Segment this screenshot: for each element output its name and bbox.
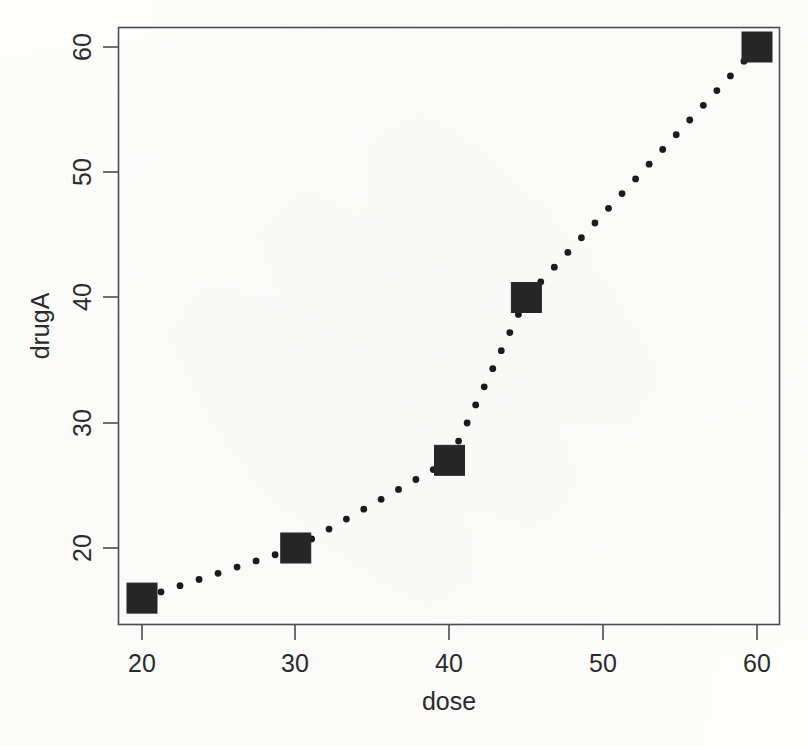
y-tick-label-50: 50 xyxy=(68,158,96,186)
series-line-dot xyxy=(196,576,203,583)
x-tick-label-40: 40 xyxy=(435,649,463,677)
series-line-dot xyxy=(564,249,571,256)
series-line-dot xyxy=(673,131,680,138)
series-line-dot xyxy=(498,347,505,354)
x-tick-label-30: 30 xyxy=(281,649,309,677)
series-line-dot xyxy=(464,420,471,427)
x-axis-ticks xyxy=(142,625,757,640)
data-point-marker xyxy=(127,583,157,613)
series-line-dot xyxy=(343,516,350,523)
series-line-dot xyxy=(472,401,479,408)
chart-figure: 20 30 40 50 60 20 30 40 50 60 xyxy=(0,0,808,746)
series-line-dot xyxy=(253,558,260,565)
y-tick-label-20: 20 xyxy=(68,534,96,562)
y-axis-ticks xyxy=(103,47,118,548)
x-axis-tick-labels: 20 30 40 50 60 xyxy=(128,649,771,677)
x-tick-label-60: 60 xyxy=(743,649,771,677)
series-line-dot xyxy=(578,234,585,241)
data-point-marker xyxy=(435,445,465,475)
series-line-dot xyxy=(378,496,385,503)
series-line-dot xyxy=(234,564,241,571)
y-axis-title: drugA xyxy=(26,292,54,359)
chart-svg: 20 30 40 50 60 20 30 40 50 60 xyxy=(0,0,808,746)
plot-frame xyxy=(119,28,780,625)
y-tick-label-30: 30 xyxy=(68,409,96,437)
series-line-dot xyxy=(727,72,734,79)
series-line-dot xyxy=(632,175,639,182)
series-line-dot xyxy=(272,551,279,558)
series-line-dot xyxy=(659,146,666,153)
y-tick-label-60: 60 xyxy=(68,33,96,61)
series-line-dot xyxy=(360,506,367,513)
series-line-dot xyxy=(158,589,165,596)
series-line-dot xyxy=(646,161,653,168)
y-tick-label-40: 40 xyxy=(68,283,96,311)
series-line-dot xyxy=(619,190,626,197)
series-line-dot xyxy=(395,486,402,493)
figure-page: 20 30 40 50 60 20 30 40 50 60 xyxy=(0,0,808,746)
data-point-marker xyxy=(281,533,311,563)
x-axis-title: dose xyxy=(422,687,476,715)
series-line-dot xyxy=(412,476,419,483)
series-line-dot xyxy=(489,365,496,372)
series-line-dot xyxy=(177,582,184,589)
data-point-marker xyxy=(511,283,541,313)
x-tick-label-50: 50 xyxy=(589,649,617,677)
series-line-dot xyxy=(686,117,693,124)
series-line-dot xyxy=(215,570,222,577)
series-line-dot xyxy=(605,205,612,212)
x-tick-label-20: 20 xyxy=(128,649,156,677)
y-axis-tick-labels: 20 30 40 50 60 xyxy=(68,33,96,562)
series-line-dot xyxy=(592,220,599,227)
series-line-dot xyxy=(713,87,720,94)
series-line-dot xyxy=(506,329,513,336)
series-line-dot xyxy=(551,264,558,271)
series-line-dot xyxy=(326,526,333,533)
data-point-marker xyxy=(742,32,772,62)
data-series-drugA xyxy=(127,32,772,613)
series-line-dot xyxy=(700,102,707,109)
series-line-dot xyxy=(455,438,462,445)
series-line-dot xyxy=(481,383,488,390)
